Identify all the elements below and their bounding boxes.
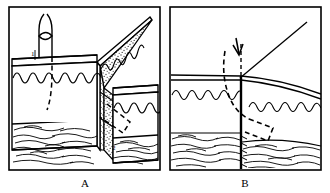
figure-root: 1 2	[0, 0, 330, 193]
figure-svg: 1 2	[0, 0, 330, 193]
annotation-1: 1	[31, 50, 35, 58]
panel-b-caption: B	[220, 178, 270, 189]
annotation-2: 2	[112, 144, 116, 152]
panel-a-caption: A	[60, 178, 110, 189]
